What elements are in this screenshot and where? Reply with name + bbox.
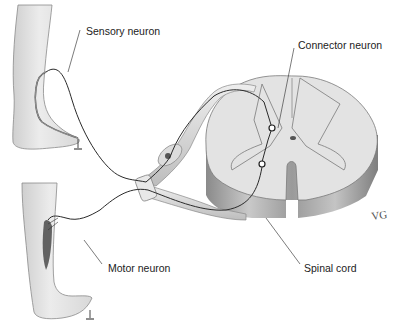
label-spinal-cord: Spinal cord — [304, 263, 357, 274]
connector-neuron-body — [269, 125, 275, 131]
spinal-cord — [206, 76, 378, 218]
leader-line-spinal — [266, 218, 300, 264]
lower-leg — [22, 183, 92, 319]
motor-neuron-body — [259, 161, 265, 167]
pin-icon — [86, 310, 94, 319]
leader-line-sensory — [68, 30, 80, 72]
label-sensory-neuron: Sensory neuron — [86, 26, 160, 37]
upper-leg — [13, 5, 80, 149]
reflex-arc-diagram: VG Sensory neuron Connector neuron Motor… — [0, 0, 396, 334]
label-motor-neuron: Motor neuron — [108, 263, 170, 274]
label-connector-neuron: Connector neuron — [298, 40, 382, 51]
artist-signature: VG — [371, 208, 388, 222]
leader-line-motor — [84, 240, 102, 264]
